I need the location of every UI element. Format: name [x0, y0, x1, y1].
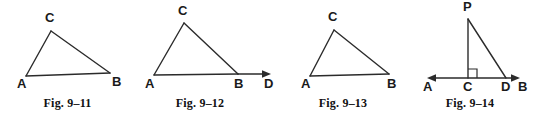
- vertex-label-d: D: [501, 79, 510, 94]
- vertex-label-a: A: [301, 76, 311, 91]
- vertex-label-c: C: [45, 10, 55, 25]
- figure-caption-9-11: Fig. 9–11: [0, 96, 135, 111]
- vertex-label-a: A: [17, 76, 27, 91]
- figure-9-12-drawing: A B C D: [140, 0, 280, 95]
- segment-cb: [184, 23, 238, 74]
- vertex-label-c: C: [463, 79, 473, 94]
- segment-ab: [310, 74, 389, 76]
- figure-9-14-drawing: P A C D B: [410, 0, 539, 98]
- right-angle-marker-c: [468, 69, 477, 78]
- segment-ac: [154, 23, 184, 75]
- figure-panel-9-12: A B C D Fig. 9–12: [140, 0, 280, 118]
- segment-cb: [51, 31, 110, 73]
- figure-caption-9-14: Fig. 9–14: [410, 96, 530, 111]
- figure-9-11-drawing: A B C: [0, 0, 135, 95]
- figure-caption-9-13: Fig. 9–13: [288, 96, 398, 111]
- figure-panel-9-13: A B C Fig. 9–13: [288, 0, 413, 118]
- vertex-label-c: C: [328, 9, 338, 24]
- vertex-label-b: B: [518, 79, 527, 94]
- figure-9-13-drawing: A B C: [288, 0, 413, 95]
- vertex-label-d: D: [264, 76, 273, 91]
- vertex-label-b: B: [387, 76, 396, 91]
- segment-ab: [154, 74, 238, 75]
- vertex-label-a: A: [423, 79, 433, 94]
- figures-row: A B C Fig. 9–11 A B C D Fig. 9–12 A B C: [0, 0, 539, 118]
- figure-caption-9-12: Fig. 9–12: [140, 96, 260, 111]
- vertex-label-b: B: [112, 74, 121, 89]
- vertex-label-c: C: [178, 3, 188, 18]
- vertex-label-p: P: [463, 0, 472, 14]
- vertex-label-b: B: [234, 76, 243, 91]
- figure-panel-9-14: P A C D B Fig. 9–14: [410, 0, 539, 118]
- segment-ab: [26, 73, 110, 76]
- segment-ac: [310, 30, 334, 76]
- segment-ac: [26, 31, 51, 76]
- figure-panel-9-11: A B C Fig. 9–11: [0, 0, 135, 118]
- segment-cb: [334, 30, 389, 74]
- vertex-label-a: A: [145, 76, 155, 91]
